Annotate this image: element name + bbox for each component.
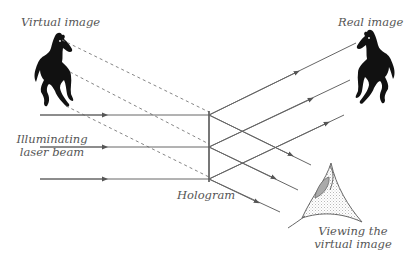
real-horse-icon <box>356 30 395 104</box>
real-rays <box>209 43 356 179</box>
real-image-label: Real image <box>338 16 403 29</box>
illuminating-label: Illuminating laser beam <box>14 133 90 159</box>
illuminating-label-line2: laser beam <box>14 146 90 159</box>
eye-icon <box>288 163 362 228</box>
hologram-diagram: Virtual image Real image Illuminating la… <box>0 0 414 265</box>
virtual-horse-icon <box>35 33 74 107</box>
viewing-label: Viewing the virtual image <box>308 225 398 251</box>
virtual-image-label: Virtual image <box>21 16 100 29</box>
hologram-label: Hologram <box>177 189 235 202</box>
viewing-label-line2: virtual image <box>308 238 398 251</box>
